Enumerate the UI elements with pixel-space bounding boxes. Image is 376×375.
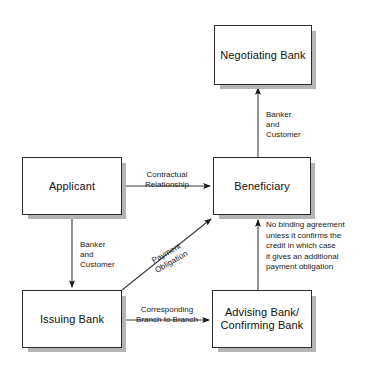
node-issuing-bank[interactable]: Issuing Bank (22, 290, 122, 348)
edge-label-applicant-issuing-banker-customer: Banker and Customer (80, 240, 140, 270)
edge-label-contractual-relationship: Contractual Relationship (131, 170, 203, 190)
diagram-canvas: Negotiating Bank Applicant Beneficiary I… (0, 0, 376, 375)
node-advising-confirming-bank[interactable]: Advising Bank/ Confirming Bank (212, 290, 312, 348)
node-beneficiary[interactable]: Beneficiary (213, 157, 311, 215)
node-beneficiary-label: Beneficiary (234, 180, 290, 193)
node-advising-confirming-bank-label: Advising Bank/ Confirming Bank (221, 306, 304, 332)
edge-label-no-binding-agreement-note: No binding agreement unless it confirms … (266, 220, 374, 273)
edge-label-corresponding-branch-to-branch: Corresponding Branch to Branch (126, 305, 208, 325)
node-negotiating-bank[interactable]: Negotiating Bank (214, 25, 312, 85)
node-applicant-label: Applicant (49, 180, 95, 193)
node-applicant[interactable]: Applicant (22, 157, 122, 215)
node-issuing-bank-label: Issuing Bank (40, 313, 104, 326)
edge-label-beneficiary-negotiating-banker-customer: Banker and Customer (266, 110, 326, 140)
node-negotiating-bank-label: Negotiating Bank (220, 49, 305, 62)
